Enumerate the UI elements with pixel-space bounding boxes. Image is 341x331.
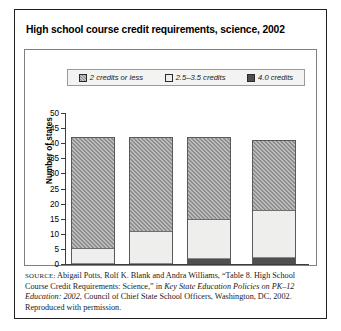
dark-swatch-icon (247, 74, 255, 82)
chart-legend: 2 credits or less 2.5–3.5 credits 4.0 cr… (67, 69, 305, 86)
hatched-gray-swatch-icon (79, 74, 87, 82)
bar-3-segment-3 (188, 259, 230, 264)
legend-label-2: 4.0 credits (258, 73, 293, 82)
bar-2-segment-1 (130, 137, 172, 232)
source-note: SOURCE: Abigail Potts, Rolf K. Blank and… (25, 271, 317, 313)
bar-2[interactable] (129, 137, 173, 264)
y-tick-label-10: 10 (37, 229, 59, 238)
page-title: High school course credit requirements, … (26, 24, 316, 36)
y-axis-label: Number of states (45, 105, 54, 197)
chart-panel: 2 credits or less 2.5–3.5 credits 4.0 cr… (24, 49, 317, 266)
bar-4[interactable] (252, 140, 296, 264)
y-tick-label-30: 30 (37, 169, 59, 178)
y-tick-label-40: 40 (37, 139, 59, 148)
y-tick-label-20: 20 (37, 199, 59, 208)
y-tick-label-25: 25 (37, 184, 59, 193)
legend-item-1: 2.5–3.5 credits (165, 73, 226, 82)
bar-1-segment-1 (72, 137, 114, 249)
y-tick-label-5: 5 (37, 244, 59, 253)
bar-4-segment-3 (253, 258, 295, 264)
figure-container: High school course credit requirements, … (14, 9, 327, 319)
bar-3-segment-2 (188, 220, 230, 259)
bar-2-segment-2 (130, 232, 172, 264)
bar-3-segment-1 (188, 137, 230, 220)
legend-label-1: 2.5–3.5 credits (176, 73, 226, 82)
light-swatch-icon (165, 74, 173, 82)
legend-label-0: 2 credits or less (90, 73, 143, 82)
y-tick-label-45: 45 (37, 124, 59, 133)
bar-4-segment-2 (253, 211, 295, 258)
bar-3[interactable] (187, 137, 231, 264)
bar-4-segment-1 (253, 140, 295, 211)
plot-area (66, 113, 309, 264)
bar-1[interactable] (71, 137, 115, 264)
y-tick-label-35: 35 (37, 154, 59, 163)
legend-item-2: 4.0 credits (247, 73, 293, 82)
y-tick-label-50: 50 (37, 109, 59, 118)
bar-1-segment-2 (72, 249, 114, 264)
y-tick-label-15: 15 (37, 214, 59, 223)
y-tick-label-0: 0 (37, 260, 59, 269)
source-prefix: SOURCE: (25, 272, 56, 279)
legend-item-0: 2 credits or less (79, 73, 143, 82)
x-axis-line (65, 264, 309, 265)
